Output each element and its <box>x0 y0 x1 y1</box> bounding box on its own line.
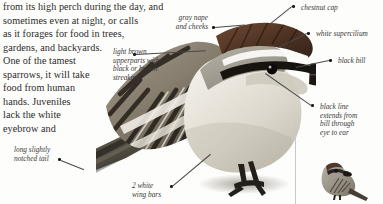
leader-dot-supercilium <box>307 32 310 35</box>
eye <box>267 64 278 75</box>
annotation-chestnut-cap: chestnut cap <box>301 4 361 13</box>
annotation-black-bill: black bill <box>338 57 382 66</box>
annotation-long-notched-tail: long slightly notched tail <box>14 146 76 163</box>
annotation-white-supercilium: white supercilium <box>316 30 383 39</box>
leader-dot-black-bill <box>329 59 332 62</box>
annotation-line: chestnut cap <box>301 4 361 13</box>
annotation-line: streaking <box>113 74 185 83</box>
annotation-gray-nape-and-cheeks: gray nape and cheeks <box>152 14 208 31</box>
annotation-line: eye to ear <box>320 129 382 138</box>
leader-dot-chestnut-cap <box>292 5 295 8</box>
panel-divider <box>295 118 296 204</box>
annotation-line: wing bars <box>132 191 180 200</box>
annotation-line: black bill <box>338 57 382 66</box>
annotation-black-line-through-eye: black line extends from bill through eye… <box>320 103 382 137</box>
chipping-sparrow-thumbnail <box>306 158 370 202</box>
field-guide-page: from its high perch during the day, and … <box>0 0 383 204</box>
annotation-line: and cheeks <box>152 23 208 32</box>
annotation-line: white supercilium <box>316 30 383 39</box>
black-bill <box>309 64 316 86</box>
